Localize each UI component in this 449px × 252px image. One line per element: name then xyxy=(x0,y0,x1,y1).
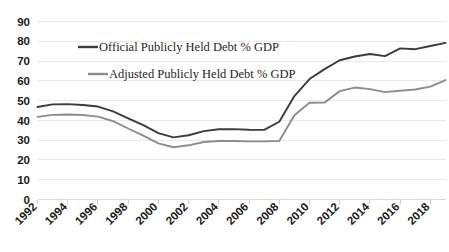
series-line-adjusted xyxy=(38,80,446,147)
y-tick-label-10: 10 xyxy=(17,174,30,186)
x-tick-label-2012: 2012 xyxy=(315,200,342,227)
x-tick-label-1994: 1994 xyxy=(43,200,70,227)
y-tick-label-50: 50 xyxy=(17,95,30,107)
x-tick-label-2018: 2018 xyxy=(405,200,432,227)
x-tick-label-1992: 1992 xyxy=(12,200,39,227)
y-tick-label-20: 20 xyxy=(17,154,30,166)
x-tick-label-2002: 2002 xyxy=(163,200,190,227)
x-tick-label-2006: 2006 xyxy=(224,200,251,227)
x-tick-label-2008: 2008 xyxy=(254,200,281,227)
x-tick-label-1996: 1996 xyxy=(73,200,100,227)
series-lines-group xyxy=(38,43,446,147)
y-tick-label-40: 40 xyxy=(17,115,30,127)
x-tick-label-2016: 2016 xyxy=(375,200,402,227)
chart-container: 0102030405060708090 19921994199619982000… xyxy=(0,0,449,252)
legend-label-adjusted: Adjusted Publicly Held Debt % GDP xyxy=(109,67,295,81)
x-tick-label-2000: 2000 xyxy=(133,200,160,227)
y-tick-label-30: 30 xyxy=(17,134,30,146)
legend-label-official: Official Publicly Held Debt % GDP xyxy=(99,40,279,54)
x-tick-label-1998: 1998 xyxy=(103,200,130,227)
series-line-official xyxy=(38,43,446,138)
x-axis-tick-labels: 1992199419961998200020022004200620082010… xyxy=(12,200,432,227)
y-tick-label-60: 60 xyxy=(17,75,30,87)
y-axis-tick-labels: 0102030405060708090 xyxy=(17,16,30,206)
line-chart: 0102030405060708090 19921994199619982000… xyxy=(0,0,449,252)
x-tick-label-2010: 2010 xyxy=(284,200,311,227)
y-tick-label-90: 90 xyxy=(17,16,30,28)
y-tick-label-70: 70 xyxy=(17,55,30,67)
tickmarks-group xyxy=(38,200,431,205)
x-tick-label-2014: 2014 xyxy=(345,200,372,227)
y-tick-label-80: 80 xyxy=(17,35,30,47)
x-tick-label-2004: 2004 xyxy=(194,200,221,227)
